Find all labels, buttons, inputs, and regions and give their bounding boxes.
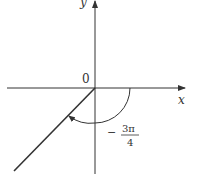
angle-sign: − xyxy=(107,126,116,139)
x-axis-label: x xyxy=(178,93,185,107)
angle-denominator: 4 xyxy=(127,137,133,148)
angle-diagram: 0 x y − 3π 4 xyxy=(0,0,198,179)
y-axis-label: y xyxy=(79,0,87,9)
angle-numerator: 3π xyxy=(122,123,135,134)
terminal-ray xyxy=(14,88,95,171)
origin-label: 0 xyxy=(82,72,90,86)
